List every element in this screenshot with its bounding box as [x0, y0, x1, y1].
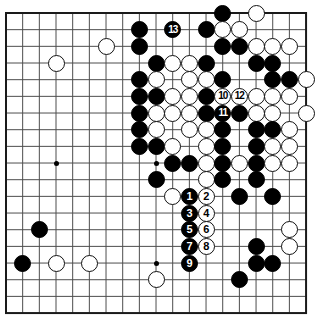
stone-black[interactable]: [181, 155, 198, 172]
stone-black[interactable]: [214, 5, 231, 22]
stone-white[interactable]: [248, 88, 265, 105]
stone-black[interactable]: [198, 105, 215, 122]
stone-white[interactable]: [148, 105, 165, 122]
stone-black-move-7[interactable]: 7: [181, 238, 198, 255]
stone-white[interactable]: [181, 71, 198, 88]
stone-white[interactable]: [198, 121, 215, 138]
stone-black-move-3[interactable]: 3: [181, 205, 198, 222]
stone-white[interactable]: [248, 105, 265, 122]
stone-white-move-8[interactable]: 8: [198, 238, 215, 255]
stone-black[interactable]: [148, 138, 165, 155]
stone-black[interactable]: [131, 105, 148, 122]
stone-black[interactable]: [131, 38, 148, 55]
stone-black-move-9[interactable]: 9: [181, 255, 198, 272]
stone-white[interactable]: [281, 138, 298, 155]
stone-white[interactable]: [198, 155, 215, 172]
stone-white[interactable]: [148, 271, 165, 288]
stone-black[interactable]: [248, 171, 265, 188]
stone-white[interactable]: [281, 238, 298, 255]
stone-white[interactable]: [281, 121, 298, 138]
stone-black[interactable]: [198, 55, 215, 72]
stone-white[interactable]: [164, 138, 181, 155]
stone-black[interactable]: [214, 138, 231, 155]
stone-white[interactable]: [281, 155, 298, 172]
move-number-label: 11: [218, 108, 227, 118]
stone-white[interactable]: [148, 71, 165, 88]
stone-white[interactable]: [181, 55, 198, 72]
stone-black[interactable]: [231, 188, 248, 205]
move-number-label: 1: [187, 190, 193, 201]
stone-black[interactable]: [198, 21, 215, 38]
stone-black[interactable]: [164, 155, 181, 172]
stone-white-move-6[interactable]: 6: [198, 221, 215, 238]
stone-white[interactable]: [164, 88, 181, 105]
stone-black[interactable]: [214, 38, 231, 55]
stone-white-move-2[interactable]: 2: [198, 188, 215, 205]
stone-white[interactable]: [198, 171, 215, 188]
stone-black[interactable]: [231, 38, 248, 55]
stone-white[interactable]: [281, 88, 298, 105]
stone-white[interactable]: [264, 138, 281, 155]
stone-black[interactable]: [248, 238, 265, 255]
move-number-label: 6: [203, 224, 209, 235]
stone-black[interactable]: [248, 155, 265, 172]
stone-black[interactable]: [131, 121, 148, 138]
stone-black[interactable]: [214, 155, 231, 172]
stone-white-move-12[interactable]: 12: [231, 88, 248, 105]
stone-white[interactable]: [181, 88, 198, 105]
stone-white[interactable]: [264, 155, 281, 172]
stone-black[interactable]: [131, 71, 148, 88]
stone-white[interactable]: [231, 21, 248, 38]
stone-white[interactable]: [81, 255, 98, 272]
stone-white[interactable]: [148, 121, 165, 138]
stone-white[interactable]: [164, 105, 181, 122]
stone-white[interactable]: [281, 38, 298, 55]
stone-black[interactable]: [248, 55, 265, 72]
stone-black[interactable]: [231, 105, 248, 122]
stone-white[interactable]: [98, 38, 115, 55]
stone-white[interactable]: [281, 221, 298, 238]
stone-black[interactable]: [131, 21, 148, 38]
stone-black[interactable]: [231, 271, 248, 288]
stone-black[interactable]: [131, 88, 148, 105]
stone-black[interactable]: [198, 88, 215, 105]
stone-black[interactable]: [248, 138, 265, 155]
stone-black-move-1[interactable]: 1: [181, 188, 198, 205]
stone-black[interactable]: [264, 55, 281, 72]
stone-black[interactable]: [14, 255, 31, 272]
stone-black-move-5[interactable]: 5: [181, 221, 198, 238]
move-number-label: 5: [187, 224, 193, 235]
stone-white[interactable]: [198, 71, 215, 88]
stone-black[interactable]: [248, 121, 265, 138]
stone-white[interactable]: [264, 88, 281, 105]
stone-white[interactable]: [231, 155, 248, 172]
stone-black-move-11[interactable]: 11: [214, 105, 231, 122]
stone-black[interactable]: [148, 171, 165, 188]
stone-white[interactable]: [298, 105, 315, 122]
stone-black[interactable]: [248, 255, 265, 272]
stone-black[interactable]: [264, 188, 281, 205]
stone-white[interactable]: [48, 55, 65, 72]
stone-white[interactable]: [264, 38, 281, 55]
stone-black[interactable]: [264, 255, 281, 272]
stone-white[interactable]: [198, 138, 215, 155]
stone-black[interactable]: [31, 221, 48, 238]
stone-white[interactable]: [298, 71, 315, 88]
stone-black[interactable]: [281, 71, 298, 88]
stone-white[interactable]: [248, 38, 265, 55]
stone-white[interactable]: [164, 188, 181, 205]
move-number-label: 2: [203, 190, 209, 201]
hoshi-point: [154, 261, 159, 266]
stone-white[interactable]: [181, 105, 198, 122]
stone-white-move-4[interactable]: 4: [198, 205, 215, 222]
stone-white[interactable]: [248, 5, 265, 22]
stone-black[interactable]: [131, 138, 148, 155]
stone-white-move-10[interactable]: 10: [214, 88, 231, 105]
stone-white[interactable]: [48, 255, 65, 272]
stone-black[interactable]: [148, 55, 165, 72]
stone-black[interactable]: [148, 88, 165, 105]
move-number-label: 10: [218, 91, 227, 101]
stone-white[interactable]: [164, 55, 181, 72]
stone-white[interactable]: [181, 121, 198, 138]
stone-white[interactable]: [264, 105, 281, 122]
